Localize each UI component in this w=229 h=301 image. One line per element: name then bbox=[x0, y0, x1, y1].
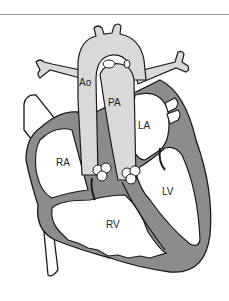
label-right-ventricle: RV bbox=[106, 219, 120, 230]
label-pulmonary-artery: PA bbox=[108, 97, 121, 108]
brachiocephalic-branch bbox=[36, 60, 80, 78]
arch-opening-small bbox=[124, 60, 130, 68]
heart-diagram: Ao PA LA RA LV RV bbox=[0, 0, 229, 301]
label-left-atrium: LA bbox=[138, 120, 151, 131]
label-aorta: Ao bbox=[79, 77, 92, 88]
arch-opening bbox=[103, 60, 115, 68]
label-right-atrium: RA bbox=[56, 157, 70, 168]
label-left-ventricle: LV bbox=[162, 186, 174, 197]
